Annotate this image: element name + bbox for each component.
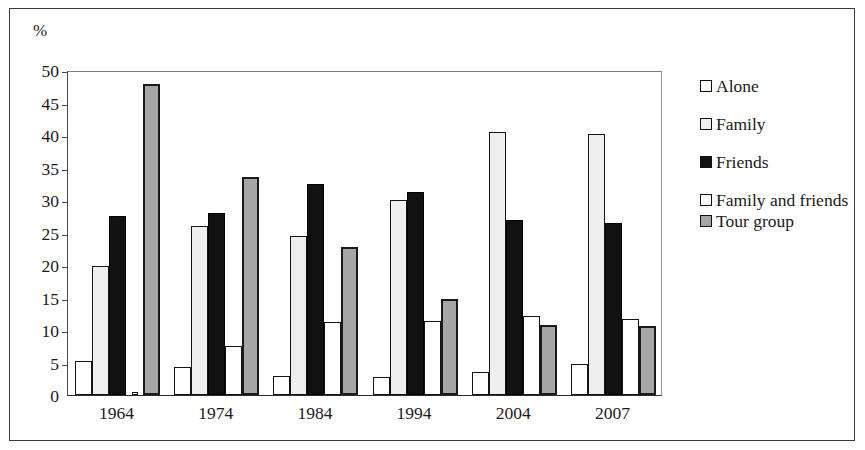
legend-swatch-icon bbox=[700, 80, 712, 92]
y-axis-tick-label: 0 bbox=[50, 388, 59, 406]
plot-area: 05101520253035404550 bbox=[67, 71, 662, 396]
legend-item: Alone bbox=[700, 76, 850, 97]
legend-swatch-icon bbox=[700, 215, 712, 227]
y-axis-tick-label: 45 bbox=[42, 95, 60, 113]
x-axis-tick-label: 2007 bbox=[595, 405, 630, 423]
bar bbox=[75, 361, 92, 395]
bar bbox=[273, 376, 290, 396]
y-axis-tick-label: 5 bbox=[50, 355, 59, 373]
bar bbox=[307, 184, 324, 395]
bar bbox=[191, 226, 208, 395]
legend-swatch-icon bbox=[700, 194, 712, 206]
bar bbox=[523, 316, 540, 395]
bar bbox=[540, 325, 557, 395]
y-axis-tick-label: 30 bbox=[42, 193, 60, 211]
bar-group bbox=[465, 72, 564, 395]
legend-label: Family bbox=[716, 114, 766, 135]
legend-item: Family and friends bbox=[700, 190, 850, 211]
bar bbox=[341, 247, 358, 395]
x-axis-tick-label: 1994 bbox=[397, 405, 432, 423]
bar bbox=[290, 236, 307, 395]
bar bbox=[324, 322, 341, 395]
bar-group bbox=[68, 72, 167, 395]
bar bbox=[441, 299, 458, 395]
legend-swatch-icon bbox=[700, 118, 712, 130]
bar-group bbox=[167, 72, 266, 395]
bar-group bbox=[266, 72, 365, 395]
legend-swatch-icon bbox=[700, 156, 712, 168]
legend-item: Tour group bbox=[700, 211, 850, 232]
bar bbox=[506, 220, 523, 396]
x-axis-tick-label: 1974 bbox=[198, 405, 233, 423]
bar bbox=[472, 372, 489, 395]
x-axis-tick-label: 2004 bbox=[496, 405, 531, 423]
y-axis-tick-label: 50 bbox=[42, 63, 60, 81]
y-axis-unit-label: % bbox=[33, 22, 47, 39]
bar bbox=[588, 134, 605, 395]
bar bbox=[407, 192, 424, 395]
bar bbox=[390, 200, 407, 395]
y-axis-tick-label: 35 bbox=[42, 160, 60, 178]
bar bbox=[174, 367, 191, 395]
bar bbox=[208, 213, 225, 395]
chart-figure: % 05101520253035404550 AloneFamilyFriend… bbox=[0, 0, 865, 450]
bar bbox=[424, 321, 441, 395]
y-axis-tick-label: 10 bbox=[42, 323, 60, 341]
bar bbox=[109, 216, 126, 395]
bar-group bbox=[366, 72, 465, 395]
bar bbox=[92, 266, 109, 395]
x-axis-tick-label: 1964 bbox=[99, 405, 134, 423]
bar bbox=[132, 392, 138, 395]
legend-label: Family and friends bbox=[716, 190, 848, 211]
chart-legend: AloneFamilyFriendsFamily and friendsTour… bbox=[700, 76, 850, 249]
legend-label: Alone bbox=[716, 76, 759, 97]
y-axis-tick-label: 25 bbox=[42, 225, 60, 243]
bar bbox=[571, 364, 588, 395]
legend-item: Friends bbox=[700, 152, 850, 173]
legend-label: Tour group bbox=[716, 211, 794, 232]
bar bbox=[639, 326, 656, 395]
y-axis-tick-label: 40 bbox=[42, 128, 60, 145]
legend-item: Family bbox=[700, 114, 850, 135]
bar bbox=[622, 319, 639, 395]
bar bbox=[373, 377, 390, 395]
y-axis-tick-label: 20 bbox=[42, 258, 60, 276]
bar bbox=[143, 84, 160, 395]
bar bbox=[242, 177, 259, 395]
x-axis-tick-label: 1984 bbox=[297, 405, 332, 423]
bar bbox=[489, 132, 506, 395]
bar bbox=[605, 223, 622, 395]
bar bbox=[225, 346, 242, 395]
bar-group bbox=[564, 72, 663, 395]
legend-label: Friends bbox=[716, 152, 769, 173]
y-axis-tick-label: 15 bbox=[42, 290, 60, 308]
